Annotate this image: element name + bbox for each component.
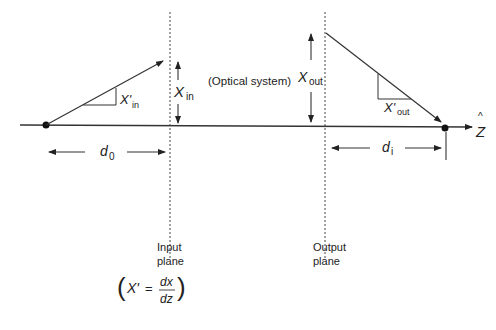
derivative-formula: ( X' = dx dz ) [117,272,186,306]
formula-denominator: dz [160,292,173,306]
formula-lhs: X' [126,280,140,296]
input-plane-label: Input plane [157,241,184,267]
output-plane-label: Output plane [313,241,346,267]
x-out-label: X out [297,69,323,87]
formula-numerator: dx [160,275,174,289]
formula-close-paren: ) [177,272,186,302]
d0-label: d 0 [100,143,115,162]
optical-system-label: (Optical system) [208,75,291,87]
input-ray [46,61,163,125]
svg-text:in: in [186,91,194,102]
svg-text:d: d [382,139,391,155]
z-hat: ^ [478,111,483,122]
svg-text:plane: plane [313,255,340,267]
z-label: Z [475,123,486,140]
svg-text:X: X [297,69,308,85]
optical-axis [20,125,472,127]
svg-text:in: in [132,100,139,110]
svg-text:out: out [309,76,323,87]
x-in-label: X in [173,83,194,102]
image-point [442,125,449,132]
svg-text:X: X [173,83,185,100]
di-label: d i [382,139,393,157]
svg-text:out: out [397,107,410,117]
svg-text:i: i [391,146,393,157]
svg-text:0: 0 [109,151,115,162]
x-out-prime-label: X' out [383,100,410,117]
formula-open-paren: ( [117,272,126,302]
x-in-prime-label: X' in [119,92,139,110]
svg-text:X': X' [119,92,132,107]
svg-text:d: d [100,143,109,159]
svg-text:Input: Input [157,241,181,253]
svg-text:X': X' [383,100,396,115]
svg-text:plane: plane [157,255,184,267]
svg-text:Output: Output [313,241,346,253]
optical-system-diagram: Z ^ X' in X in (Optical system) X out X'… [0,0,496,330]
z-axis-label: Z ^ [475,111,486,140]
formula-equals: = [145,281,153,296]
